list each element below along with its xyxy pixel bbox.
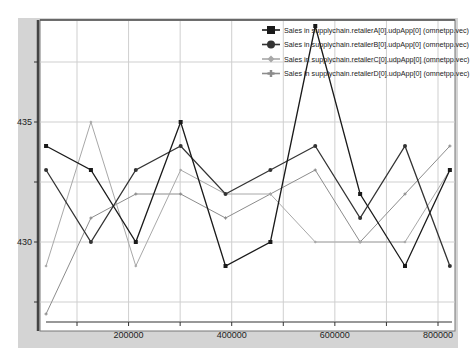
legend-item: Sales in supplychain.retailerC[0].udpApp…: [262, 55, 469, 64]
line-chart: 200000400000600000800000 430435 Sales in…: [0, 0, 473, 355]
legend-item: Sales in supplychain.retailerA[0].udpApp…: [262, 26, 469, 35]
legend-label: Sales in supplychain.retailerB[0].udpApp…: [284, 40, 469, 49]
x-tick-label: 600000: [320, 330, 350, 340]
legend-item: Sales in supplychain.retailerB[0].udpApp…: [262, 40, 469, 49]
legend-label: Sales in supplychain.retailerD[0].udpApp…: [284, 69, 469, 78]
x-tick-label: 800000: [423, 330, 453, 340]
legend-label: Sales in supplychain.retailerA[0].udpApp…: [284, 26, 469, 35]
legend-item: Sales in supplychain.retailerD[0].udpApp…: [262, 69, 469, 78]
x-tick-label: 200000: [114, 330, 144, 340]
x-tick-label: 400000: [217, 330, 247, 340]
legend-label: Sales in supplychain.retailerC[0].udpApp…: [284, 55, 469, 64]
y-tick-label: 430: [17, 237, 32, 247]
plot-area: [40, 20, 455, 331]
y-tick-label: 435: [17, 117, 32, 127]
